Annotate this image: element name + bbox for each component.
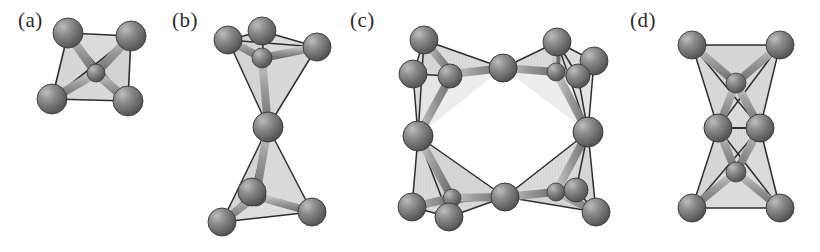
cluster-figure: (a) xyxy=(0,0,820,252)
panel-b-graphic xyxy=(170,0,345,252)
panel-b: (b) xyxy=(170,0,345,252)
panel-a-graphic xyxy=(0,0,170,252)
lower-center-atom xyxy=(726,162,746,182)
upper-center-atom xyxy=(252,48,272,68)
panel-c: (c) xyxy=(345,0,620,252)
center-atom xyxy=(87,64,105,82)
upper-center-atom xyxy=(726,73,746,93)
shared-corner-sphere xyxy=(253,112,283,142)
panel-d-graphic xyxy=(620,0,820,252)
panel-a: (a) xyxy=(0,0,170,252)
panel-c-graphic xyxy=(345,0,620,252)
panel-d: (d) xyxy=(620,0,820,252)
